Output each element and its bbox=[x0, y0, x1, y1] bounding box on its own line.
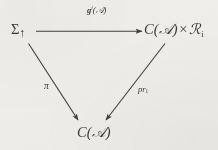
node-product-operator: × bbox=[178, 21, 189, 37]
edge-label-left-projection-text: π bbox=[44, 81, 49, 91]
edge-label-right-projection-subscript: 1 bbox=[146, 88, 149, 94]
edge-label-right-projection-base: pr bbox=[138, 84, 146, 94]
edge-label-left-projection: π bbox=[44, 82, 49, 92]
edge-left-projection-arrow bbox=[29, 44, 79, 121]
node-configuration: C(𝒜) bbox=[77, 125, 111, 140]
node-product: C(𝒜)×ℛi bbox=[144, 22, 204, 39]
node-sigma-up: Σ↑ bbox=[11, 22, 26, 40]
edge-label-top-map-paren-close: ) bbox=[104, 5, 107, 15]
node-sigma-up-base: Σ bbox=[11, 21, 20, 37]
commutative-diagram: C(A) x R_i --> C(A) --> C(A) --> Σ↑ C(𝒜)… bbox=[0, 0, 218, 150]
node-product-right-factor: ℛ bbox=[189, 21, 201, 37]
node-sigma-up-subscript: ↑ bbox=[20, 26, 26, 40]
node-product-right-subscript: i bbox=[201, 29, 204, 39]
edge-label-right-projection: pr1 bbox=[138, 85, 148, 95]
node-configuration-label: C(𝒜) bbox=[77, 124, 111, 140]
edge-label-top-map-argument-symbol: 𝒜̂ bbox=[96, 5, 104, 15]
node-product-left-factor: C(𝒜) bbox=[144, 21, 178, 37]
edge-label-top-map: gi(𝒜̂) bbox=[87, 6, 106, 15]
edge-right-projection-arrow bbox=[106, 44, 165, 121]
